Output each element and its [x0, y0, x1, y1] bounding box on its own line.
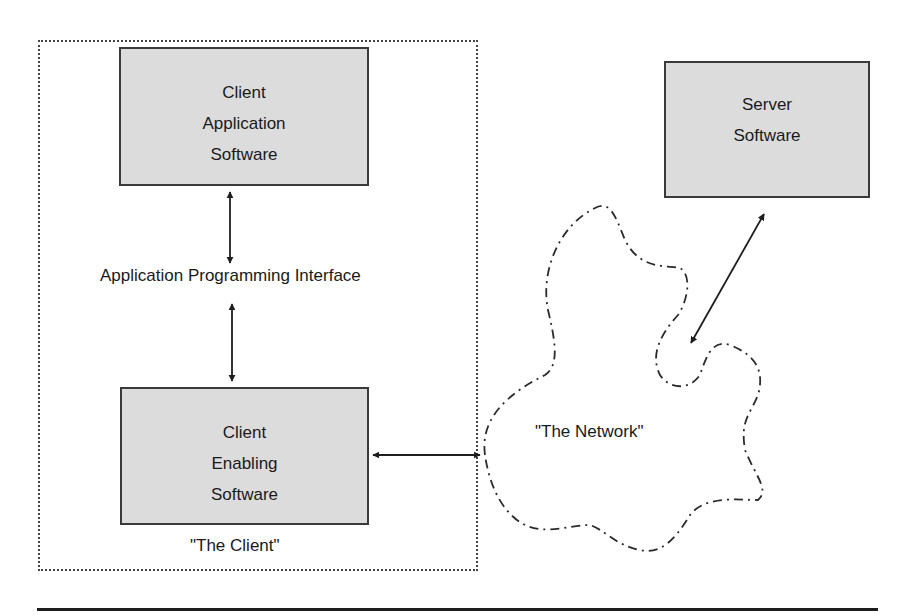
bottom-rule	[37, 608, 878, 611]
network-cloud	[484, 206, 762, 551]
network-label: "The Network"	[535, 422, 643, 442]
diagram-connectors	[0, 0, 902, 615]
server-network-arrow	[691, 214, 764, 343]
